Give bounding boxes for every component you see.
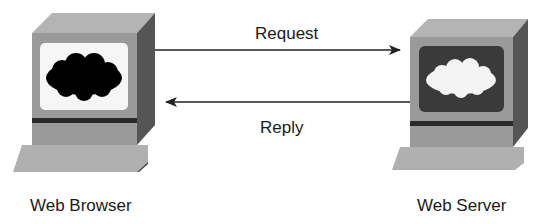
monitor-base-divider: [32, 118, 137, 123]
web-browser-label: Web Browser: [30, 196, 132, 216]
base-front-face: [410, 126, 513, 147]
monitor-top-face: [410, 19, 528, 37]
web-server-label: Web Server: [417, 196, 506, 216]
monitor-base-divider: [410, 121, 513, 126]
monitor-side-face: [513, 19, 528, 147]
web-server-computer-icon: [392, 19, 528, 170]
monitor-side-face: [137, 13, 155, 145]
base-front-face: [32, 123, 137, 145]
web-browser-computer-icon: [13, 13, 155, 172]
keyboard-icon: [13, 145, 148, 172]
request-label: Request: [255, 24, 318, 44]
keyboard-icon: [392, 147, 524, 170]
monitor-top-face: [32, 13, 155, 33]
reply-label: Reply: [260, 118, 303, 138]
